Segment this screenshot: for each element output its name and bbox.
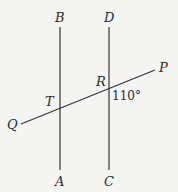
label-p: P (158, 60, 168, 75)
geometry-diagram: B D P R 110° T Q A C (0, 0, 178, 192)
label-r: R (95, 74, 106, 89)
label-c: C (104, 174, 114, 189)
label-b: B (54, 10, 65, 25)
label-d: D (103, 10, 115, 25)
angle-label: 110° (112, 89, 141, 103)
label-a: A (54, 174, 64, 189)
label-q: Q (7, 117, 18, 132)
label-t: T (45, 94, 55, 109)
